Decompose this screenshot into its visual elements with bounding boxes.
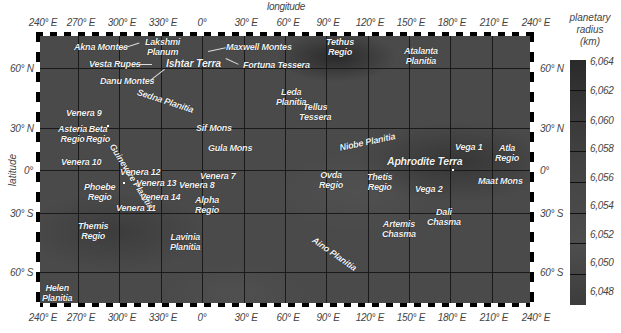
grid-line bbox=[36, 272, 534, 273]
lat-tick-right: 30° S bbox=[540, 208, 563, 219]
colorbar-label: 6,064 bbox=[590, 56, 614, 67]
colorbar-label: 6,050 bbox=[590, 257, 614, 268]
y-axis-title: latitude bbox=[7, 154, 18, 186]
label-gula-mons: Gula Mons bbox=[208, 143, 252, 153]
grid-line bbox=[36, 170, 534, 171]
lon-tick-top: 210° E bbox=[480, 17, 508, 28]
label-tellus-tessera: TellusTessera bbox=[299, 102, 331, 122]
label-asteria-regio: AsteriaRegio bbox=[58, 124, 87, 144]
label-venera-9: Venera 9 bbox=[66, 108, 102, 118]
label-venera-14: Venera 14 bbox=[140, 192, 180, 202]
label-akna-montes: Akna Montes bbox=[74, 42, 128, 52]
label-alpha-regio: AlphaRegio bbox=[195, 195, 219, 215]
label-venera-8: Venera 8 bbox=[179, 180, 215, 190]
label-sedna-planitia: Sedna Planitia bbox=[136, 87, 195, 115]
lon-tick-top: 30° E bbox=[234, 17, 257, 28]
lon-tick-top: 60° E bbox=[276, 17, 299, 28]
lon-tick-top: 150° E bbox=[397, 17, 425, 28]
colorbar-tick bbox=[570, 274, 586, 275]
colorbar bbox=[570, 60, 586, 305]
lon-tick-top: 0° bbox=[198, 17, 207, 28]
lon-tick-bottom: 300° E bbox=[108, 312, 136, 323]
lon-tick-top: 270° E bbox=[67, 17, 95, 28]
colorbar-label: 6,060 bbox=[590, 115, 614, 126]
colorbar-label: 6,054 bbox=[590, 200, 614, 211]
label-venera-13: Venera 13 bbox=[136, 178, 176, 188]
lat-tick-right: 30° N bbox=[540, 123, 564, 134]
lon-tick-top: 120° E bbox=[356, 17, 384, 28]
lon-tick-bottom: 90° E bbox=[316, 312, 339, 323]
label-aino-planitia: Aino Planitia bbox=[310, 235, 358, 273]
lon-tick-top: 90° E bbox=[316, 17, 339, 28]
lon-tick-bottom: 240° E bbox=[522, 312, 550, 323]
leader-line bbox=[136, 64, 152, 65]
label-vesta-rupes: Vesta Rupes bbox=[89, 59, 141, 69]
label-venera-10: Venera 10 bbox=[61, 157, 101, 167]
label-atla-regio: AtlaRegio bbox=[495, 143, 519, 163]
lat-tick-left: 30° S bbox=[10, 208, 33, 219]
lon-tick-bottom: 150° E bbox=[397, 312, 425, 323]
leader-line bbox=[226, 58, 239, 65]
lon-tick-top: 240° E bbox=[29, 17, 57, 28]
colorbar-tick bbox=[570, 213, 586, 214]
lat-tick-left: 30° N bbox=[10, 123, 34, 134]
label-sif-mons: Sif Mons bbox=[196, 123, 232, 133]
landing-site-vega-2 bbox=[452, 169, 454, 171]
label-lakshmi-planum: LakshmiPlanum bbox=[145, 37, 180, 57]
colorbar-label: 6,062 bbox=[590, 85, 614, 96]
map-border-top bbox=[36, 32, 534, 36]
lat-tick-right: 60° N bbox=[540, 63, 564, 74]
colorbar-tick bbox=[570, 121, 586, 122]
lon-tick-top: 240° E bbox=[522, 17, 550, 28]
label-danu-montes: Danu Montes bbox=[100, 76, 154, 86]
venus-topographic-map: Akna Montes LakshmiPlanum Maxwell Montes… bbox=[36, 32, 534, 307]
label-artemis-chasma: ArtemisChasma bbox=[382, 219, 416, 239]
label-venera-12: Venera 12 bbox=[120, 167, 160, 177]
lat-tick-right: 0° bbox=[540, 165, 549, 176]
colorbar-title: planetaryradius(km) bbox=[560, 12, 620, 48]
lat-tick-left: 0° bbox=[24, 165, 33, 176]
label-aphrodite-terra: Aphrodite Terra bbox=[387, 156, 462, 166]
lon-tick-bottom: 270° E bbox=[67, 312, 95, 323]
colorbar-label: 6,056 bbox=[590, 172, 614, 183]
landing-site-venera-9 bbox=[107, 125, 109, 127]
lon-tick-top: 330° E bbox=[149, 17, 177, 28]
lon-tick-bottom: 120° E bbox=[356, 312, 384, 323]
label-ovda-regio: OvdaRegio bbox=[319, 170, 343, 190]
label-dali-chasma: DaliChasma bbox=[427, 207, 461, 227]
lon-tick-bottom: 240° E bbox=[29, 312, 57, 323]
label-lavinia-planitia: LaviniaPlanitia bbox=[170, 232, 200, 252]
lon-tick-top: 180° E bbox=[438, 17, 466, 28]
lon-tick-bottom: 0° bbox=[198, 312, 207, 323]
lat-tick-right: 60° S bbox=[540, 267, 563, 278]
x-axis-title: longitude bbox=[267, 1, 305, 12]
lon-tick-bottom: 30° E bbox=[234, 312, 257, 323]
label-vega-2: Vega 2 bbox=[415, 184, 442, 194]
colorbar-label: 6,048 bbox=[590, 286, 614, 297]
map-border-left bbox=[36, 32, 40, 307]
label-fortuna-tessera: Fortuna Tessera bbox=[243, 60, 310, 70]
lat-tick-left: 60° S bbox=[10, 267, 33, 278]
landing-site-venera-13 bbox=[123, 182, 125, 184]
label-venera-11: Venera 11 bbox=[116, 203, 156, 213]
colorbar-tick bbox=[570, 151, 586, 152]
colorbar-tick bbox=[570, 90, 586, 91]
grid-line bbox=[36, 128, 534, 129]
colorbar-tick bbox=[570, 243, 586, 244]
label-thetis-regio: ThetisRegio bbox=[367, 172, 392, 192]
label-maxwell-montes: Maxwell Montes bbox=[226, 42, 292, 52]
leader-line bbox=[208, 47, 226, 52]
lon-tick-bottom: 180° E bbox=[438, 312, 466, 323]
label-tethus-regio: TethusRegio bbox=[326, 37, 354, 57]
label-phoebe-regio: PhoebeRegio bbox=[84, 182, 115, 202]
map-border-bottom bbox=[36, 303, 534, 307]
map-border-right bbox=[530, 32, 534, 307]
label-ishtar-terra: Ishtar Terra bbox=[166, 58, 221, 68]
label-themis-regio: ThemisRegio bbox=[78, 221, 108, 241]
colorbar-label: 6,052 bbox=[590, 229, 614, 240]
label-maat-mons: Maat Mons bbox=[478, 176, 523, 186]
label-beta-regio: BetaRegio bbox=[86, 124, 110, 144]
lon-tick-bottom: 330° E bbox=[149, 312, 177, 323]
lon-tick-bottom: 60° E bbox=[276, 312, 299, 323]
label-helen-planitia: HelenPlanitia bbox=[42, 283, 72, 303]
